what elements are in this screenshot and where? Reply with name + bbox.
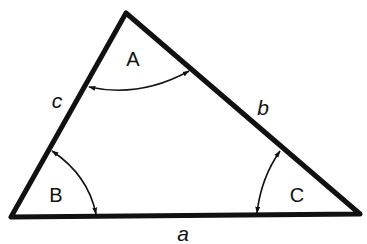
side-label-a: a xyxy=(177,222,189,244)
triangle-outline xyxy=(11,13,360,217)
angle-label-c: C xyxy=(290,184,304,206)
angle-a-arc xyxy=(89,71,189,90)
angle-c-arc xyxy=(257,151,280,213)
triangle-diagram: A B C a b c xyxy=(0,0,367,244)
angle-label-a: A xyxy=(126,48,140,70)
side-label-c: c xyxy=(52,89,63,112)
side-label-b: b xyxy=(257,96,269,119)
angle-label-b: B xyxy=(49,184,62,206)
